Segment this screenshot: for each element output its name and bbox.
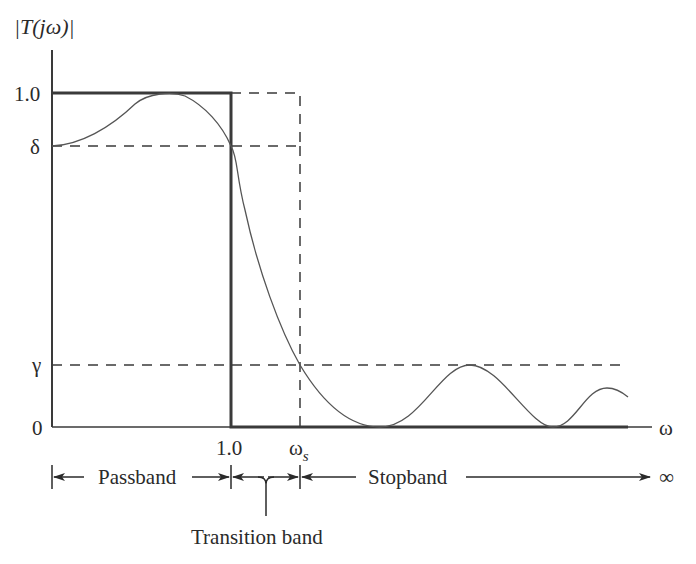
y-axis-title: |T(jω)| bbox=[14, 14, 75, 39]
infinity-symbol: ∞ bbox=[659, 465, 674, 489]
y-tick-gamma: γ bbox=[31, 353, 41, 377]
x-axis-title: ω bbox=[659, 416, 673, 440]
x-tick-passband-edge: 1.0 bbox=[216, 436, 242, 460]
y-tick-delta: δ bbox=[30, 135, 40, 159]
filter-spec-diagram: |T(jω)| 1.0 δ γ 0 ω 1.0 ωs Passband Stop… bbox=[0, 0, 696, 564]
stopband-label: Stopband bbox=[368, 465, 448, 489]
y-tick-1: 1.0 bbox=[14, 82, 40, 106]
x-tick-omega-s: ωs bbox=[289, 436, 309, 464]
actual-response-curve bbox=[52, 93, 628, 427]
ideal-response bbox=[52, 93, 628, 427]
transition-band-label: Transition band bbox=[191, 525, 323, 549]
passband-label: Passband bbox=[98, 465, 177, 489]
y-tick-0: 0 bbox=[32, 416, 43, 440]
spec-dashed-lines bbox=[52, 93, 622, 427]
